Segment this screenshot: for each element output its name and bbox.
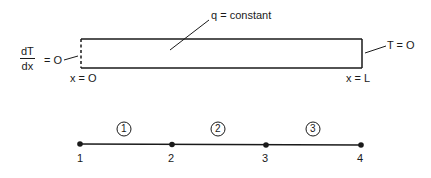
element-1-label: 1 [121, 124, 127, 134]
left-position-label: x = O [70, 73, 97, 84]
diagram-canvas [0, 0, 431, 178]
fraction-denominator: dx [20, 59, 35, 72]
node-2 [169, 142, 175, 148]
node-4-label: 4 [357, 153, 363, 164]
left-bc-leader-line [64, 56, 78, 60]
node-3 [263, 142, 269, 148]
right-bc-leader-line [365, 46, 386, 53]
source-leader-line [170, 20, 209, 50]
element-3-label: 3 [310, 124, 316, 134]
node-2-label: 2 [168, 153, 174, 164]
left-bc-fraction: dT dx [20, 46, 35, 72]
element-2-label: 2 [215, 124, 221, 134]
mesh-line [80, 144, 361, 145]
right-position-label: x = L [346, 73, 370, 84]
node-3-label: 3 [262, 153, 268, 164]
right-bc-label: T = O [387, 40, 415, 51]
domain-bar [81, 39, 362, 68]
node-4 [358, 142, 364, 148]
node-1 [77, 141, 83, 147]
node-1-label: 1 [77, 153, 83, 164]
fraction-numerator: dT [20, 46, 35, 59]
source-label: q = constant [211, 10, 271, 21]
left-bc-rhs: = O [44, 55, 62, 66]
